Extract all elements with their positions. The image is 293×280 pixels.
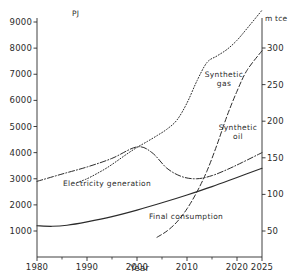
y2-tick-label: 300 [267,43,284,53]
y-tick-label: 5000 [0,122,32,132]
series-path-electricity-generation [37,147,262,182]
y-tick-label: 6000 [0,95,32,105]
y-tick-label: 9000 [0,17,32,27]
y-tick-label: 3000 [0,174,32,184]
x-tick-label: 1980 [24,262,50,272]
series-label-line: Final consumption [149,212,223,221]
y-tick-label: 8000 [0,43,32,53]
series-label-synthetic-oil: Synthetic oil [214,123,262,141]
series-label-line: gas [200,79,248,88]
energy-projection-chart: PJ m tce Year 10002000300040005000600070… [0,0,293,280]
y2-tick-label: 250 [267,80,284,90]
series-label-line: oil [214,132,262,141]
y-tick-label: 1000 [0,226,32,236]
y-tick-label: 2000 [0,200,32,210]
y2-tick-label: 150 [267,153,284,163]
y2-tick-label: 100 [267,189,284,199]
left-axis-unit: PJ [72,9,79,18]
series-label-final-consumption: Final consumption [149,212,223,221]
y-tick-label: 4000 [0,148,32,158]
x-tick-label: 1990 [74,262,100,272]
series-label-electricity-generation: Electricity generation [63,179,151,188]
y2-tick-label: 200 [267,116,284,126]
x-tick-label: 2010 [174,262,200,272]
series-label-synthetic-gas: Synthetic gas [200,70,248,88]
x-tick-label: 2020 [224,262,250,272]
series-label-line: Synthetic [214,123,262,132]
right-axis-unit: m tce [265,14,287,23]
y2-tick-label: 50 [267,226,278,236]
x-tick-label: 2025 [249,262,275,272]
y-tick-label: 7000 [0,69,32,79]
series-label-line: Electricity generation [63,179,151,188]
series-label-line: Synthetic [200,70,248,79]
x-tick-label: 2000 [124,262,150,272]
